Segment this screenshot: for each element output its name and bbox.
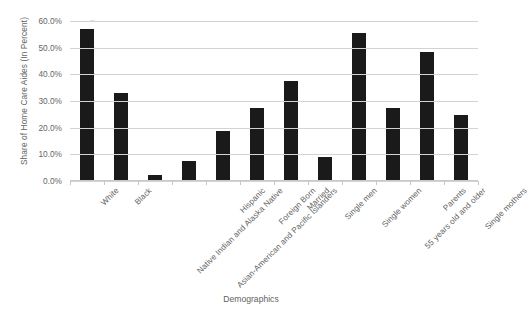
x-axis-tick: [138, 181, 139, 185]
x-axis-tick: [308, 181, 309, 185]
bar-slot: [444, 20, 478, 180]
bar-slot: [274, 20, 308, 180]
x-axis-tick-labels: WhiteBlackNative Indian and Alaska Nativ…: [70, 186, 478, 286]
bar-slot: [206, 20, 240, 180]
bar-slot: [70, 20, 104, 180]
x-axis-tick: [172, 181, 173, 185]
x-axis-tick: [342, 181, 343, 185]
x-axis-tick: [274, 181, 275, 185]
gridline: [70, 74, 478, 75]
x-axis-tick: [240, 181, 241, 185]
bar[interactable]: [318, 157, 332, 180]
bar-slot: [308, 20, 342, 180]
y-axis-tick-label: 0.0%: [43, 176, 62, 186]
bar[interactable]: [352, 33, 366, 180]
x-axis-tick-label: Native Indian and Alaska Native: [195, 186, 284, 275]
bar[interactable]: [250, 108, 264, 180]
y-axis-tick-label: 10.0%: [38, 149, 62, 159]
bar-slot: [376, 20, 410, 180]
gridline: [70, 101, 478, 102]
x-axis-tick-label: Single women: [380, 186, 423, 229]
bar[interactable]: [80, 29, 94, 180]
plot-area: [70, 21, 478, 181]
bar-slot: [104, 20, 138, 180]
x-axis-tick: [478, 181, 479, 185]
bar[interactable]: [284, 81, 298, 180]
gridline: [70, 48, 478, 49]
y-axis-tick-labels: 0.0%10.0%20.0%30.0%40.0%50.0%60.0%: [26, 21, 66, 181]
y-axis-tick-label: 60.0%: [38, 16, 62, 26]
y-axis-tick-label: 40.0%: [38, 69, 62, 79]
bar-slot: [342, 20, 376, 180]
x-axis-tick: [444, 181, 445, 185]
y-axis-tick-label: 50.0%: [38, 43, 62, 53]
x-axis-tick: [376, 181, 377, 185]
bar[interactable]: [420, 52, 434, 180]
x-axis-tick: [206, 181, 207, 185]
bar-slot: [172, 20, 206, 180]
x-axis-title: Demographics: [0, 294, 502, 304]
bar-slot: [410, 20, 444, 180]
gridline: [70, 128, 478, 129]
x-axis-tick-label: White: [99, 186, 120, 207]
bar[interactable]: [386, 108, 400, 180]
bar-slot: [240, 20, 274, 180]
y-axis-tick-label: 30.0%: [38, 96, 62, 106]
bar[interactable]: [182, 161, 196, 180]
x-axis-tick-label: Black: [133, 186, 154, 207]
gridline: [70, 21, 478, 22]
x-axis-tick-label: Single men: [343, 186, 379, 222]
bar[interactable]: [216, 131, 230, 180]
bar[interactable]: [454, 115, 468, 180]
bar-slot: [138, 20, 172, 180]
bar[interactable]: [114, 93, 128, 180]
y-axis-tick-label: 20.0%: [38, 123, 62, 133]
x-axis-tick: [104, 181, 105, 185]
gridline: [70, 154, 478, 155]
x-axis-tick: [410, 181, 411, 185]
x-axis-tick-label: Single mothers: [483, 186, 529, 232]
x-axis-tick: [70, 181, 71, 185]
